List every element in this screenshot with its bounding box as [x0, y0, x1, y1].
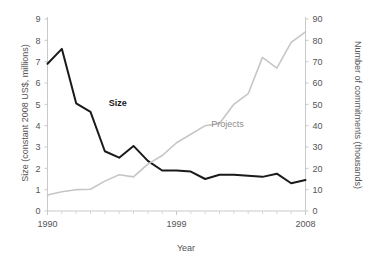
y-left-tick-labels: 0123456789	[35, 14, 40, 216]
svg-text:60: 60	[313, 78, 323, 88]
svg-text:90: 90	[313, 14, 323, 24]
svg-text:10: 10	[313, 185, 323, 195]
chart-plot: 0123456789 0102030405060708090 199019992…	[0, 0, 372, 264]
x-tick-labels: 199019992008	[37, 219, 315, 229]
svg-text:30: 30	[313, 142, 323, 152]
y-right-tick-labels: 0102030405060708090	[313, 14, 323, 216]
y-axis-right-title: Number of commitments (thousands)	[353, 30, 363, 200]
svg-text:0: 0	[35, 206, 40, 216]
svg-text:0: 0	[313, 206, 318, 216]
svg-text:40: 40	[313, 121, 323, 131]
svg-text:8: 8	[35, 36, 40, 46]
data-series-lines	[48, 32, 306, 195]
series-label-projects: Projects	[211, 119, 244, 129]
svg-text:2: 2	[35, 164, 40, 174]
axis-lines	[48, 17, 306, 211]
svg-text:50: 50	[313, 100, 323, 110]
svg-text:7: 7	[35, 57, 40, 67]
svg-text:1990: 1990	[37, 219, 57, 229]
series-label-size: Size	[109, 98, 127, 108]
svg-text:9: 9	[35, 14, 40, 24]
svg-text:6: 6	[35, 78, 40, 88]
svg-text:3: 3	[35, 142, 40, 152]
svg-text:4: 4	[35, 121, 40, 131]
svg-text:1999: 1999	[166, 219, 186, 229]
svg-text:80: 80	[313, 36, 323, 46]
chart-container: 0123456789 0102030405060708090 199019992…	[0, 0, 372, 264]
svg-text:5: 5	[35, 100, 40, 110]
y-axis-left-title: Size (constant 2008 US$, millions)	[20, 28, 30, 198]
svg-text:70: 70	[313, 57, 323, 67]
svg-text:1: 1	[35, 185, 40, 195]
svg-text:2008: 2008	[295, 219, 315, 229]
x-axis-title: Year	[0, 243, 372, 253]
svg-text:20: 20	[313, 164, 323, 174]
x-tick-marks	[48, 211, 306, 215]
